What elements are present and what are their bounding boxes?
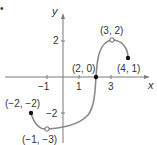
y-axis-label: y [51,5,59,17]
tick-label-x-1: 1 [76,81,82,92]
bullet-mark: • [0,3,4,14]
tick-label-x-neg1: −1 [38,81,50,92]
label-point-2-0: (2, 0) [72,63,95,74]
function-graph: • x y −1 1 3 2 −2 (−2, −2) (−1, −3) (2, … [0,0,157,145]
x-axis [5,75,150,79]
tick-label-y-neg2: −2 [46,108,58,119]
point-2-0-filled [94,75,98,79]
x-axis-label: x [147,79,154,91]
point-neg1-neg3-open [45,127,49,131]
tick-label-x-3: 3 [108,81,114,92]
y-axis [61,13,65,143]
label-point-neg1-neg3: (−1, −3) [22,134,57,145]
point-4-1-filled [126,56,130,60]
label-point-3-2: (3, 2) [100,25,123,36]
label-point-neg2-neg2: (−2, −2) [5,98,40,109]
point-3-2-open [110,38,114,42]
y-axis-arrow-icon [61,13,65,19]
label-point-4-1: (4, 1) [117,63,140,74]
point-neg2-neg2-filled [29,111,33,115]
tick-label-y-2: 2 [53,35,59,46]
